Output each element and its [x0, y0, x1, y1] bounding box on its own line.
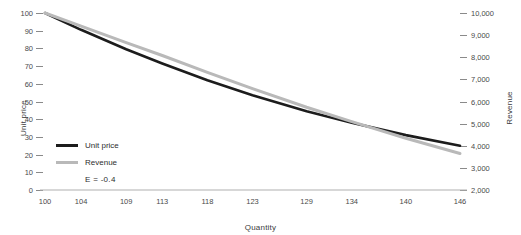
elasticity-annotation: E = -0.4 [85, 175, 116, 184]
chart-container: Unit price Revenue Quantity 010203040506… [0, 0, 521, 235]
series-line-unit-price [45, 13, 460, 146]
legend-label-revenue: Revenue [85, 158, 117, 167]
legend-label-unit-price: Unit price [85, 141, 119, 150]
legend-item-unit-price: Unit price [56, 141, 119, 150]
legend-item-revenue: Revenue [56, 158, 117, 167]
plot-area [0, 0, 521, 235]
legend-swatch-revenue [56, 161, 78, 165]
legend-swatch-unit-price [56, 144, 78, 148]
